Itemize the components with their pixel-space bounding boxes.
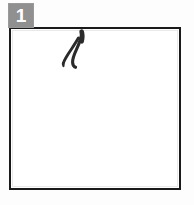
ink-stroke-mark	[52, 0, 104, 80]
panel-number-badge: 1	[8, 3, 34, 28]
outer-stroke-head	[82, 32, 83, 42]
ink-stroke-svg	[52, 0, 104, 80]
panel-number-label: 1	[16, 6, 27, 25]
figure-panel: 1	[0, 0, 194, 205]
